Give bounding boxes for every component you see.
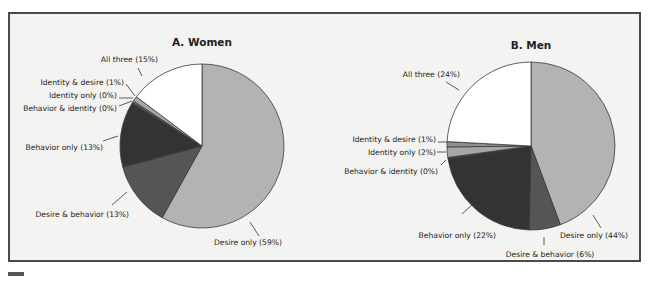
slice-label: Behavior & identity (0%) — [23, 104, 117, 113]
slice-label: Identity only (2%) — [368, 148, 436, 157]
slice-label: Behavior only (22%) — [419, 231, 496, 240]
leader-line — [441, 160, 446, 165]
slice-label: Desire & behavior (13%) — [35, 210, 129, 219]
leader-line — [593, 215, 601, 228]
slice-label: Identity & desire (1%) — [41, 78, 124, 87]
slice-label: Desire only (59%) — [214, 238, 282, 247]
leader-line — [250, 222, 259, 236]
leader-line — [119, 101, 132, 106]
pie-chart-men: B. Men All three (24%)Identity & desire … — [344, 39, 628, 259]
pie-charts: A. Women All three (15%)Identity & desir… — [0, 0, 649, 283]
slice-label: Desire & behavior (6%) — [506, 250, 595, 259]
pie-slice-behavior-only — [448, 146, 531, 230]
leader-line — [138, 68, 142, 76]
chart-title-women: A. Women — [172, 36, 232, 48]
slice-label: Behavior & identity (0%) — [344, 167, 438, 176]
slice-label: Desire only (44%) — [560, 231, 628, 240]
leader-line — [446, 82, 459, 90]
chart-title-men: B. Men — [511, 39, 552, 51]
leader-line — [462, 205, 472, 214]
pie-chart-women: A. Women All three (15%)Identity & desir… — [23, 36, 284, 247]
slice-label: All three (24%) — [403, 70, 460, 79]
pie-slices-women — [120, 64, 284, 228]
slice-label: Behavior only (13%) — [26, 143, 103, 152]
slice-label: Identity & desire (1%) — [353, 135, 436, 144]
slice-label: All three (15%) — [101, 55, 158, 64]
leader-line — [112, 192, 127, 205]
pie-slices-men — [447, 62, 615, 230]
leader-line — [126, 84, 135, 96]
slice-label: Identity only (0%) — [49, 91, 117, 100]
leader-line — [103, 136, 118, 141]
